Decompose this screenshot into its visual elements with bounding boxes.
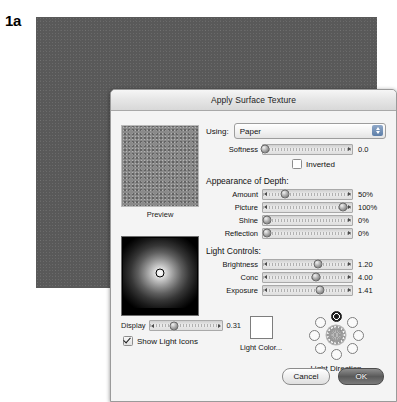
inverted-row[interactable]: Inverted	[292, 159, 386, 169]
brightness-slider-row: Brightness1.20	[206, 258, 386, 270]
brightness-label: Brightness	[206, 260, 262, 269]
amount-slider-row: Amount50%	[206, 188, 386, 200]
slider-track-ticks	[263, 232, 352, 235]
light-sphere-preview[interactable]	[121, 236, 199, 316]
direction-ne-dot[interactable]	[347, 317, 358, 328]
slider-right-arrow-icon[interactable]	[218, 324, 221, 328]
slider-right-arrow-icon[interactable]	[348, 218, 351, 222]
display-label: Display	[121, 321, 146, 330]
dialog-button-row: Cancel OK	[282, 368, 384, 385]
slider-track-ticks	[263, 219, 352, 222]
slider-track-ticks	[263, 148, 352, 151]
brightness-value: 1.20	[353, 260, 386, 269]
slider-track-ticks	[150, 324, 223, 327]
slider-thumb[interactable]	[262, 216, 271, 225]
picture-slider[interactable]	[262, 202, 353, 213]
exposure-value: 1.41	[353, 286, 386, 295]
texture-preview-thumbnail[interactable]	[121, 125, 199, 207]
chevron-updown-icon[interactable]	[372, 125, 383, 136]
slider-right-arrow-icon[interactable]	[348, 192, 351, 196]
depth-group-title: Appearance of Depth:	[206, 176, 386, 186]
using-selected-value: Paper	[240, 127, 261, 136]
light-color-control[interactable]: Light Color...	[231, 316, 291, 352]
direction-s-dot[interactable]	[331, 349, 342, 360]
light-color-label: Light Color...	[231, 343, 291, 352]
slider-thumb[interactable]	[312, 273, 321, 282]
conc-label: Conc	[206, 273, 262, 282]
slider-thumb[interactable]	[170, 321, 179, 330]
dialog-titlebar[interactable]: Apply Surface Texture	[111, 90, 396, 111]
slider-right-arrow-icon[interactable]	[348, 147, 351, 151]
picture-value: 100%	[353, 203, 386, 212]
direction-w-dot[interactable]	[309, 330, 320, 341]
conc-slider-row: Conc4.00	[206, 271, 386, 283]
inverted-label: Inverted	[306, 160, 335, 169]
inverted-checkbox[interactable]	[292, 159, 302, 169]
controls-column: Using: Paper Softness 0.0	[206, 123, 386, 297]
brightness-slider[interactable]	[262, 259, 353, 270]
ok-button[interactable]: OK	[338, 368, 384, 385]
light-direction-center-dial[interactable]	[329, 328, 344, 343]
conc-slider[interactable]	[262, 272, 353, 283]
light-direction-ring[interactable]	[306, 309, 366, 361]
depth-slider-list: Amount50%Picture100%Shine0%Reflection0%	[206, 188, 386, 239]
direction-e-dot[interactable]	[353, 330, 364, 341]
slider-left-arrow-icon[interactable]	[264, 275, 267, 279]
exposure-slider-row: Exposure1.41	[206, 284, 386, 296]
softness-value: 0.0	[353, 145, 386, 154]
display-slider[interactable]	[149, 320, 224, 331]
picture-label: Picture	[206, 203, 262, 212]
shine-label: Shine	[206, 216, 262, 225]
using-popup-menu[interactable]: Paper	[234, 123, 386, 139]
slider-right-arrow-icon[interactable]	[348, 205, 351, 209]
show-light-icons-checkbox[interactable]	[123, 336, 133, 346]
slider-thumb[interactable]	[339, 203, 348, 212]
slider-thumb[interactable]	[262, 229, 271, 238]
light-group-title: Light Controls:	[206, 246, 386, 256]
slider-right-arrow-icon[interactable]	[348, 288, 351, 292]
light-color-swatch[interactable]	[250, 316, 273, 339]
shine-slider-row: Shine0%	[206, 214, 386, 226]
slider-left-arrow-icon[interactable]	[264, 192, 267, 196]
direction-n-dot[interactable]	[331, 311, 342, 322]
slider-left-arrow-icon[interactable]	[264, 205, 267, 209]
slider-left-arrow-icon[interactable]	[264, 288, 267, 292]
slider-right-arrow-icon[interactable]	[348, 275, 351, 279]
exposure-slider[interactable]	[262, 285, 353, 296]
direction-se-dot[interactable]	[347, 343, 358, 354]
slider-thumb[interactable]	[281, 190, 290, 199]
preview-caption: Preview	[121, 210, 199, 219]
slider-left-arrow-icon[interactable]	[151, 324, 154, 328]
slider-thumb[interactable]	[314, 260, 323, 269]
softness-label: Softness	[206, 145, 262, 154]
amount-label: Amount	[206, 190, 262, 199]
figure-label: 1a	[5, 12, 21, 29]
shine-value: 0%	[353, 216, 386, 225]
show-light-icons-row[interactable]: Show Light Icons	[123, 336, 198, 346]
picture-slider-row: Picture100%	[206, 201, 386, 213]
direction-nw-dot[interactable]	[315, 317, 326, 328]
dialog-body: Preview Display 0.31 Show Light Icons	[111, 111, 396, 401]
using-label: Using:	[206, 127, 229, 136]
slider-thumb[interactable]	[315, 286, 324, 295]
reflection-slider[interactable]	[262, 228, 353, 239]
softness-slider[interactable]	[262, 144, 353, 155]
reflection-slider-row: Reflection0%	[206, 227, 386, 239]
amount-slider[interactable]	[262, 189, 353, 200]
dialog-title: Apply Surface Texture	[211, 95, 296, 105]
light-slider-list: Brightness1.20Conc4.00Exposure1.41	[206, 258, 386, 296]
shine-slider[interactable]	[262, 215, 353, 226]
slider-right-arrow-icon[interactable]	[348, 262, 351, 266]
reflection-label: Reflection	[206, 229, 262, 238]
display-slider-row: Display 0.31	[121, 320, 241, 331]
cancel-button[interactable]: Cancel	[282, 368, 331, 385]
light-direction-control: Light Direction	[297, 309, 375, 373]
light-position-marker[interactable]	[156, 268, 165, 277]
reflection-value: 0%	[353, 229, 386, 238]
slider-track-ticks	[263, 276, 352, 279]
slider-right-arrow-icon[interactable]	[348, 231, 351, 235]
slider-thumb[interactable]	[260, 145, 269, 154]
slider-left-arrow-icon[interactable]	[264, 262, 267, 266]
direction-sw-dot[interactable]	[315, 343, 326, 354]
